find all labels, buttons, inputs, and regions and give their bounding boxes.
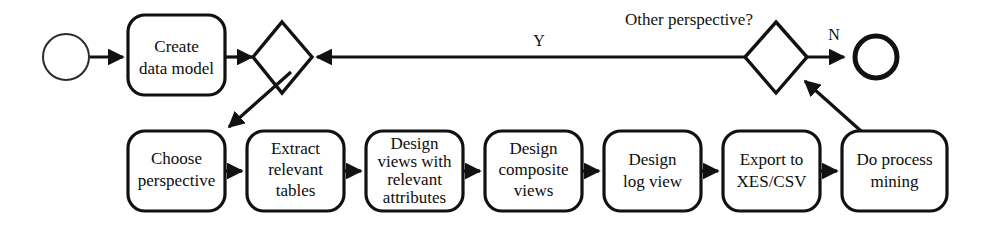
node-create-data-model-line2: data model bbox=[139, 59, 214, 78]
edge-label-no: N bbox=[828, 26, 840, 43]
node-design-log-view-line1: Design bbox=[628, 150, 677, 169]
edge-process-mining-to-gateway bbox=[805, 81, 861, 131]
node-extract-relevant-tables-line3: tables bbox=[276, 181, 316, 200]
end-event-circle bbox=[855, 36, 897, 78]
node-do-process-mining-line1: Do process bbox=[856, 150, 932, 169]
node-design-log-view-line2: log view bbox=[623, 172, 683, 191]
edge-label-yes: Y bbox=[533, 32, 545, 49]
flowchart-diagram: Create data model Y Other perspective? N… bbox=[0, 0, 990, 229]
node-do-process-mining-line2: mining bbox=[870, 172, 919, 191]
node-design-composite-views-line1: Design bbox=[509, 139, 558, 158]
node-design-views-line2: views with bbox=[377, 152, 452, 171]
node-choose-perspective-line2: perspective bbox=[138, 171, 215, 190]
gateway-merge-left bbox=[253, 22, 312, 93]
gateway-decision-right bbox=[745, 22, 807, 93]
node-choose-perspective-line1: Choose bbox=[151, 149, 202, 168]
flowchart-canvas: Create data model Y Other perspective? N… bbox=[0, 0, 990, 229]
start-event-circle bbox=[43, 34, 89, 80]
node-extract-relevant-tables-line1: Extract bbox=[271, 139, 320, 158]
node-export-xes-csv-line1: Export to bbox=[740, 150, 804, 169]
node-design-views-line3: relevant bbox=[387, 170, 442, 189]
node-design-composite-views-line2: composite bbox=[499, 160, 569, 179]
node-design-views-line1: Design bbox=[390, 134, 439, 153]
node-export-xes-csv-line2: XES/CSV bbox=[737, 172, 808, 191]
edge-left-gateway-to-choose-perspective bbox=[229, 72, 291, 127]
node-design-views-line4: attributes bbox=[383, 188, 446, 207]
node-create-data-model-line1: Create bbox=[154, 37, 198, 56]
node-extract-relevant-tables-line2: relevant bbox=[268, 160, 323, 179]
gateway-question-label: Other perspective? bbox=[625, 10, 753, 29]
node-design-composite-views-line3: views bbox=[514, 181, 554, 200]
